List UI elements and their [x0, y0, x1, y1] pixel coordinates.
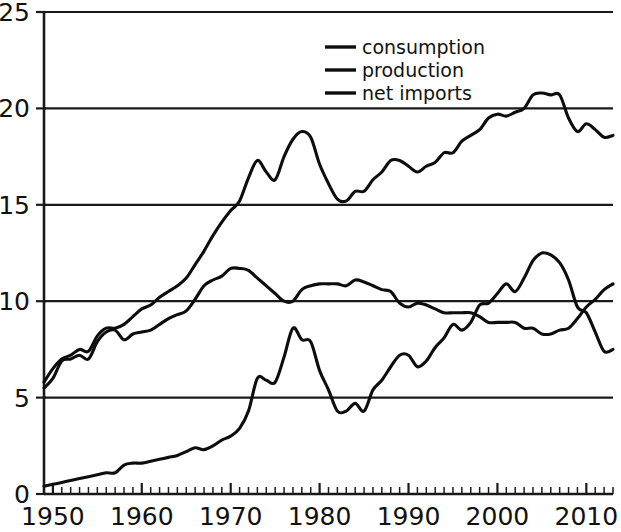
y-tick-label-15: 15 — [0, 191, 30, 220]
x-tick-label-2000: 2000 — [466, 502, 530, 531]
series-line-net-imports — [44, 253, 613, 487]
x-tick-labels: 1950196019701980199020002010 — [21, 502, 618, 531]
legend-label-net-imports: net imports — [362, 82, 472, 104]
legend-label-consumption: consumption — [362, 36, 485, 58]
x-tick-label-1970: 1970 — [199, 502, 263, 531]
line-chart: 0510152025 1950196019701980199020002010 … — [0, 0, 621, 532]
legend-label-production: production — [362, 59, 464, 81]
series-lines — [44, 93, 613, 486]
x-tick-marks — [53, 483, 613, 494]
x-tick-label-1980: 1980 — [288, 502, 352, 531]
x-tick-label-1950: 1950 — [21, 502, 85, 531]
x-tick-label-2010: 2010 — [555, 502, 619, 531]
y-tick-labels: 0510152025 — [0, 0, 30, 509]
axes — [44, 12, 613, 494]
chart-page: 0510152025 1950196019701980199020002010 … — [0, 0, 621, 532]
y-tick-label-25: 25 — [0, 0, 30, 27]
x-tick-label-1990: 1990 — [377, 502, 441, 531]
y-tick-label-5: 5 — [14, 384, 30, 413]
y-tick-label-10: 10 — [0, 287, 30, 316]
y-tick-label-20: 20 — [0, 94, 30, 123]
x-tick-label-1960: 1960 — [110, 502, 174, 531]
chart-legend: consumptionproductionnet imports — [325, 36, 485, 104]
series-line-production — [44, 268, 613, 388]
